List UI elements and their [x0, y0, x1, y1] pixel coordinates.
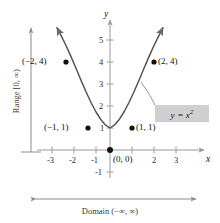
x-tick-label-neg1: -1	[91, 156, 98, 165]
callout-leader-line	[141, 82, 155, 105]
equation-lead: y = x	[170, 110, 190, 120]
point-marker	[107, 147, 113, 153]
point-marker	[151, 59, 156, 64]
y-axis-name: y	[104, 10, 108, 20]
point-marker	[85, 125, 90, 130]
x-tick-label-3: 3	[174, 156, 178, 165]
parabola-figure: -3 -2 -1 2 3 5 4 3 2 1 -1 y x (−2, 4) (−…	[0, 0, 220, 223]
y-tick-label-4: 4	[99, 58, 103, 67]
equation-callout-text: y = x2	[170, 108, 193, 120]
y-tick-label-5: 5	[99, 36, 103, 45]
range-annotation: Range [0, ∞)	[12, 56, 21, 126]
y-tick-label-3: 3	[99, 80, 103, 89]
point-label-neg2-4: (−2, 4)	[22, 57, 47, 66]
point-label-neg1-1: (−1, 1)	[44, 123, 69, 132]
x-tick-label-2: 2	[152, 156, 156, 165]
range-indicator	[21, 28, 41, 152]
x-axis	[37, 147, 204, 154]
y-tick-label-neg1: -1	[95, 168, 102, 177]
y-tick-label-1: 1	[100, 124, 104, 133]
equation-callout-box: y = x2	[155, 105, 209, 122]
domain-annotation: Domain (−∞, ∞)	[0, 207, 220, 216]
x-axis-name: x	[206, 155, 210, 165]
point-label-2-4: (2, 4)	[158, 57, 178, 66]
point-marker	[63, 59, 68, 64]
point-label-1-1: (1, 1)	[136, 123, 156, 132]
x-tick-label-neg3: -3	[47, 156, 54, 165]
point-marker	[129, 125, 134, 130]
y-tick-label-2: 2	[99, 102, 103, 111]
equation-exponent: 2	[190, 108, 193, 115]
x-tick-label-neg2: -2	[69, 156, 76, 165]
point-label-origin: (0, 0)	[113, 155, 133, 164]
